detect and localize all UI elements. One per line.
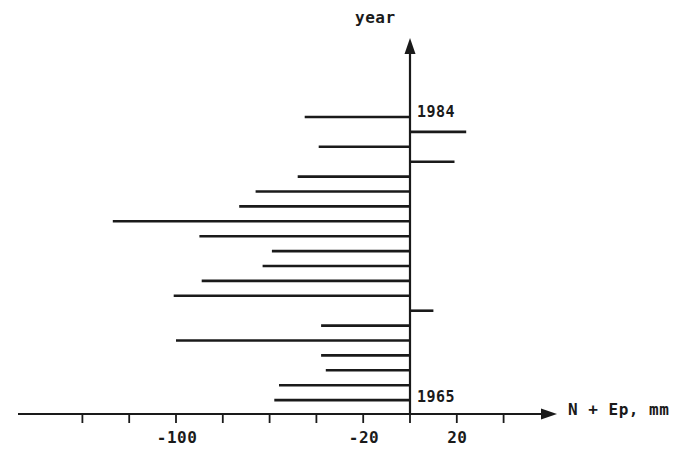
y-axis-arrowhead [405,38,416,54]
year-label-bottom: 1965 [417,388,455,406]
chart-canvas [0,0,680,467]
x-tick-label-20: 20 [447,428,467,447]
bar-series [113,117,466,400]
x-axis-ticks [82,414,503,423]
x-axis-arrowhead [541,409,557,420]
axes-group [18,38,557,420]
x-axis-title: N + Ep, mm [568,400,669,419]
x-tick-label--100: -100 [157,428,198,447]
year-label-top: 1984 [417,103,455,121]
y-axis-title: year [355,8,396,27]
x-tick-label--20: -20 [349,428,379,447]
chart-figure: year N + Ep, mm 1984 1965 -100-2020 [0,0,680,467]
